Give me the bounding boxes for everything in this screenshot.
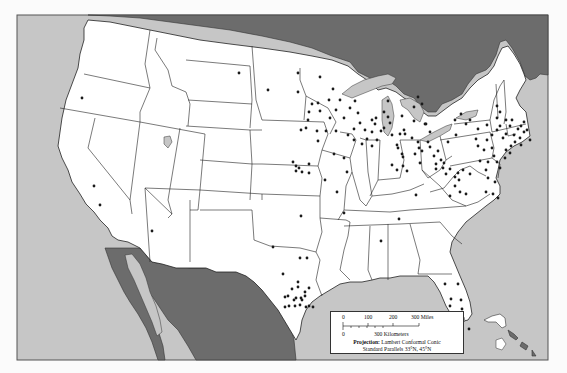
- data-point: [509, 125, 512, 128]
- data-point: [387, 100, 390, 103]
- data-point: [402, 156, 405, 159]
- data-point: [297, 91, 300, 94]
- data-point: [366, 138, 369, 141]
- scale-miles-100: 100: [364, 314, 372, 320]
- data-point: [81, 97, 84, 100]
- data-point: [319, 110, 322, 113]
- data-point: [300, 215, 303, 218]
- data-point: [499, 111, 502, 114]
- data-point: [418, 147, 421, 150]
- data-point: [450, 298, 453, 301]
- data-point: [425, 123, 428, 126]
- data-point: [284, 306, 287, 309]
- data-point: [376, 139, 379, 142]
- data-point: [496, 117, 499, 120]
- data-point: [357, 112, 360, 115]
- data-point: [499, 167, 502, 170]
- data-point: [291, 288, 294, 291]
- data-point: [295, 165, 298, 168]
- data-point: [514, 141, 517, 144]
- data-point: [282, 273, 285, 276]
- data-point: [433, 155, 436, 158]
- data-point: [371, 131, 374, 134]
- map-legend: 0 100 200 300 Miles 0 300 Kilometers Pro…: [330, 311, 464, 354]
- data-point: [417, 141, 420, 144]
- scale-miles-200: 200: [389, 314, 397, 320]
- data-point: [304, 295, 307, 298]
- data-point: [468, 328, 471, 331]
- data-point: [383, 127, 386, 130]
- data-point: [238, 72, 241, 75]
- data-point: [455, 134, 458, 137]
- data-point: [449, 195, 452, 198]
- data-point: [496, 161, 499, 164]
- data-point: [505, 133, 508, 136]
- data-point: [295, 170, 298, 173]
- data-point: [354, 100, 357, 103]
- data-point: [401, 153, 404, 156]
- data-point: [316, 130, 319, 133]
- data-point: [487, 161, 490, 164]
- data-point: [505, 149, 508, 152]
- data-point: [494, 181, 497, 184]
- data-point: [272, 246, 275, 249]
- data-point: [496, 129, 499, 132]
- data-point: [359, 122, 362, 125]
- data-point: [343, 157, 346, 160]
- data-point: [325, 130, 328, 133]
- data-point: [449, 168, 452, 171]
- data-point: [429, 131, 432, 134]
- data-point: [343, 212, 346, 215]
- data-point: [486, 124, 489, 127]
- data-point: [292, 161, 295, 164]
- data-point: [336, 191, 339, 194]
- data-point: [346, 171, 349, 174]
- data-point: [421, 150, 424, 153]
- data-point: [513, 134, 516, 137]
- data-point: [308, 172, 311, 175]
- data-point: [399, 133, 402, 136]
- data-point: [454, 119, 457, 122]
- data-point: [380, 130, 383, 133]
- data-point: [520, 125, 523, 128]
- data-point: [311, 103, 314, 106]
- data-point: [421, 103, 424, 106]
- data-point: [454, 176, 457, 179]
- data-point: [397, 147, 400, 150]
- data-point: [403, 129, 406, 132]
- data-point: [332, 88, 335, 91]
- data-point: [284, 296, 287, 299]
- data-point: [294, 305, 297, 308]
- data-point: [469, 119, 472, 122]
- data-point: [380, 240, 383, 243]
- data-point: [333, 153, 336, 156]
- data-point: [349, 107, 352, 110]
- data-point: [267, 89, 270, 92]
- data-point: [457, 283, 460, 286]
- data-point: [328, 99, 331, 102]
- data-point: [519, 137, 522, 140]
- data-point: [339, 99, 342, 102]
- data-point: [324, 179, 327, 182]
- data-point: [477, 145, 480, 148]
- data-point: [317, 140, 320, 143]
- data-point: [404, 133, 407, 136]
- data-point: [437, 150, 440, 153]
- standard-parallels: Standard Parallels 33°N, 45°N: [331, 346, 463, 352]
- data-point: [396, 144, 399, 147]
- data-point: [297, 281, 300, 284]
- data-point: [308, 305, 311, 308]
- data-point: [469, 173, 472, 176]
- data-point: [419, 162, 422, 165]
- data-point: [477, 128, 480, 131]
- data-point: [445, 173, 448, 176]
- data-point: [401, 115, 404, 118]
- data-point: [443, 162, 446, 165]
- data-point: [526, 129, 529, 132]
- data-point: [343, 117, 346, 120]
- data-point: [301, 171, 304, 174]
- data-point: [496, 105, 499, 108]
- data-point: [457, 172, 460, 175]
- data-point: [99, 204, 102, 207]
- data-point: [510, 145, 513, 148]
